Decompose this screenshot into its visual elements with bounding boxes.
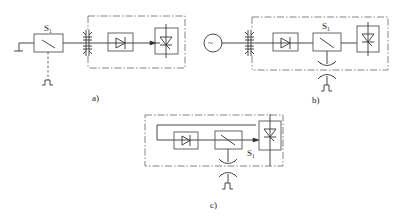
switch-s1-box	[34, 34, 63, 52]
circuit-diagrams: S1	[0, 0, 400, 219]
feedback-loop	[157, 125, 258, 140]
caption-a: a)	[92, 93, 99, 103]
diagram-a: S1	[14, 16, 185, 103]
arrow-icon	[253, 138, 259, 142]
rectifier-box	[273, 33, 298, 51]
thyristor-icon	[362, 22, 374, 56]
thyristor-icon	[160, 24, 172, 58]
rectifier-box	[174, 132, 198, 149]
thyristor-icon	[264, 114, 276, 166]
diode-icon	[182, 135, 190, 146]
pulse-icon	[222, 183, 233, 189]
pulse-icon	[42, 80, 53, 85]
thyristor-box	[155, 28, 178, 54]
caption-b: b)	[312, 95, 320, 105]
diagram-c: S1 c)	[145, 114, 283, 210]
ground-icon	[14, 43, 34, 51]
switch-label: S1	[44, 23, 52, 34]
switch-icon	[42, 40, 55, 48]
ac-source-icon	[204, 34, 222, 52]
svg-text:~: ~	[208, 38, 213, 48]
caption-c: c)	[210, 200, 217, 210]
switch-label: S1	[322, 21, 330, 32]
rectifier-box	[108, 33, 133, 51]
switch-icon	[320, 38, 334, 48]
switch-s1-box	[313, 33, 341, 51]
enclosure-a	[88, 16, 185, 68]
switch-label: S1	[247, 148, 255, 159]
diagram-b: ~ S1	[204, 17, 388, 105]
pulse-icon	[321, 85, 332, 91]
enclosure-c	[145, 115, 283, 166]
